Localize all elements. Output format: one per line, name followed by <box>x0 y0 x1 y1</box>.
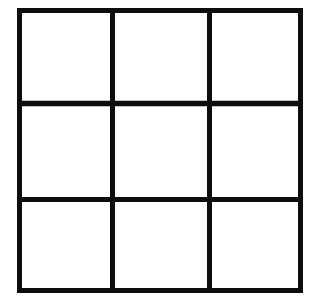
3x3-grid <box>17 8 303 293</box>
cell-r3c1[interactable] <box>20 203 110 290</box>
cell-r2c3[interactable] <box>213 107 300 197</box>
cell-r1c1[interactable] <box>20 11 110 101</box>
cell-r3c3[interactable] <box>213 203 300 290</box>
cell-r3c2[interactable] <box>116 203 206 290</box>
cell-r2c2[interactable] <box>116 107 206 197</box>
cell-r2c1[interactable] <box>20 107 110 197</box>
figure-canvas <box>0 0 317 307</box>
cell-r1c2[interactable] <box>116 11 206 101</box>
cell-r1c3[interactable] <box>213 11 300 101</box>
